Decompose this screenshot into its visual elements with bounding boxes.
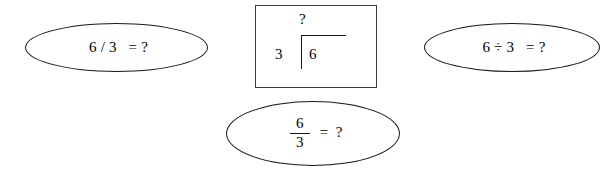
fraction-equals-text: = ? <box>320 124 343 141</box>
obelus-notation-ellipse[interactable]: 6 ÷ 3 = ? <box>424 23 600 72</box>
long-division-divisor: 3 <box>275 47 283 62</box>
long-division-box[interactable]: ? 3 6 <box>255 5 377 88</box>
fraction-notation-ellipse[interactable]: 6 3 = ? <box>226 101 400 166</box>
slash-notation-ellipse[interactable]: 6 / 3 = ? <box>25 23 208 72</box>
long-division-dividend: 6 <box>309 47 317 62</box>
diagram-canvas: 6 / 3 = ? ? 3 6 6 ÷ 3 = ? 6 3 = ? <box>0 0 613 177</box>
fraction-numerator: 6 <box>292 116 308 133</box>
long-division-quotient: ? <box>299 12 306 27</box>
slash-notation-text: 6 / 3 = ? <box>89 40 148 55</box>
long-division-vinculum-icon <box>301 35 346 36</box>
fraction-stack: 6 3 <box>290 116 310 151</box>
fraction-denominator: 3 <box>292 134 308 151</box>
fraction-expression: 6 3 = ? <box>290 116 343 151</box>
long-division-bracket-icon <box>301 35 302 69</box>
obelus-notation-text: 6 ÷ 3 = ? <box>482 40 545 55</box>
